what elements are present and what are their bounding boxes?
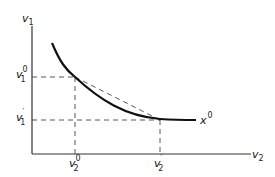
v2-prime-label: v′2 [154, 154, 163, 173]
curve-label: x0 [199, 111, 213, 127]
v1-0-label: v01 [16, 65, 28, 84]
y-axis-label: v1 [22, 12, 34, 27]
diagram-canvas: v1 v2 v01 v′1 v02 v′2 x0 [0, 0, 275, 177]
v2-0-label: v02 [69, 154, 81, 173]
v1-prime-label: v′1 [16, 108, 25, 127]
chord-line [75, 77, 160, 120]
indifference-curve [52, 43, 196, 120]
x-axis-label: v2 [252, 148, 264, 163]
